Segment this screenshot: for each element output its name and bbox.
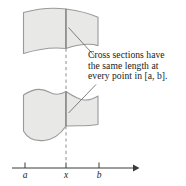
axis-label-x: x: [64, 170, 68, 180]
axis-label-a: a: [23, 170, 28, 180]
cross-sections-figure: Cross sections have the same length at e…: [0, 0, 186, 186]
lower-region-left-shape: [24, 89, 67, 140]
annotation-line-1: Cross sections have: [88, 50, 184, 61]
lower-region-group: [24, 89, 99, 140]
arrow-right-icon: [133, 165, 140, 172]
annotation-text: Cross sections have the same length at e…: [88, 50, 184, 82]
annotation-line-3: every point in [a, b].: [88, 71, 184, 82]
figure-graphics: [0, 0, 186, 186]
upper-region-group: [24, 8, 99, 53]
axis-label-b: b: [97, 170, 102, 180]
upper-region-left-shape: [24, 8, 67, 53]
lower-region-right-shape: [66, 92, 98, 127]
number-line-axis: [12, 163, 140, 172]
